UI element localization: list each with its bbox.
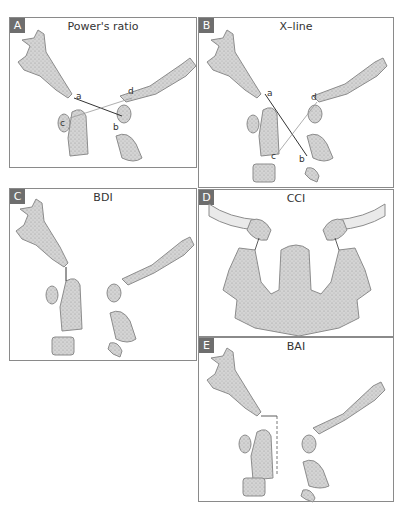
c3-spinous bbox=[301, 490, 315, 502]
panel-b-x-line: B X–line a b c d bbox=[198, 17, 394, 188]
label-c: c bbox=[60, 118, 65, 128]
basion-bone bbox=[16, 199, 68, 267]
panel-a-powers-ratio: A Power's ratio a b c d bbox=[9, 17, 197, 168]
condyle-right bbox=[323, 219, 347, 240]
cci-left-measure bbox=[255, 238, 259, 250]
cci-diagram bbox=[199, 190, 395, 338]
panel-c-bdi: C BDI bbox=[9, 188, 197, 361]
c3-spinous bbox=[305, 168, 319, 182]
posterior-arch bbox=[117, 105, 131, 123]
bai-diagram bbox=[199, 338, 395, 503]
panel-e-bai: E BAI bbox=[198, 337, 394, 502]
label-b: b bbox=[299, 154, 305, 164]
dens bbox=[251, 430, 273, 480]
dens bbox=[259, 108, 279, 156]
dens bbox=[60, 279, 82, 331]
posterior-arch bbox=[302, 435, 316, 453]
label-b: b bbox=[113, 122, 119, 132]
basion-bone bbox=[207, 348, 261, 416]
label-d: d bbox=[311, 92, 317, 102]
label-d: d bbox=[128, 86, 134, 96]
c2-spinous bbox=[110, 311, 136, 342]
c1-c2-complex bbox=[223, 245, 371, 336]
c3-spinous bbox=[108, 343, 122, 357]
opisthion-bone bbox=[313, 382, 385, 434]
label-a: a bbox=[267, 88, 273, 98]
opisthion-bone bbox=[122, 237, 194, 285]
label-a: a bbox=[76, 91, 82, 101]
anterior-arch bbox=[247, 115, 259, 133]
condyle-left bbox=[247, 219, 271, 240]
dens bbox=[68, 110, 88, 156]
c3-body bbox=[52, 337, 74, 355]
anterior-arch bbox=[46, 286, 58, 304]
posterior-arch bbox=[107, 284, 121, 302]
basion-bone bbox=[18, 30, 72, 98]
cci-right-measure bbox=[335, 238, 339, 250]
powers-ratio-diagram: a b c d bbox=[10, 18, 198, 169]
bdi-diagram bbox=[10, 189, 198, 362]
panel-d-cci: D CCI bbox=[198, 189, 394, 337]
label-c: c bbox=[271, 151, 276, 161]
c2-spinous bbox=[303, 460, 329, 488]
c3-body bbox=[253, 164, 275, 182]
x-line-diagram: a b c d bbox=[199, 18, 395, 189]
c3-body bbox=[243, 478, 265, 496]
opisthion-bone bbox=[313, 58, 387, 102]
c2-spinous bbox=[116, 134, 142, 161]
posterior-arch bbox=[308, 105, 322, 123]
anterior-arch bbox=[239, 435, 251, 453]
c2-spinous bbox=[307, 134, 333, 161]
basion-bone bbox=[207, 30, 261, 98]
